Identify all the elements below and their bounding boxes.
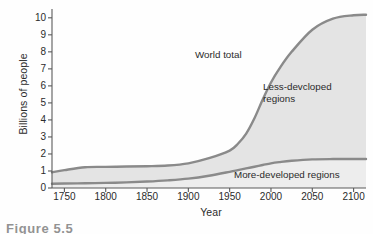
figure-caption: Figure 5.5 (6, 221, 73, 234)
annotation-more-developed-regions: More-developed regions (234, 169, 340, 181)
x-tick-label: 1850 (124, 191, 170, 202)
x-tick-label: 2050 (289, 191, 335, 202)
annotation-less-developed-regions: Less-devcloped regions (263, 81, 332, 104)
x-tick-label: 1950 (207, 191, 253, 202)
x-tick-label: 1750 (41, 191, 87, 202)
annotation-world-total: World total (195, 49, 242, 61)
x-tick-label: 2100 (331, 191, 373, 202)
x-tick-label: 1900 (165, 191, 211, 202)
x-tick-label: 2000 (248, 191, 294, 202)
population-growth-figure: Billions of people 012345678910 Year Wor… (0, 0, 373, 234)
x-tick-label: 1800 (83, 191, 129, 202)
